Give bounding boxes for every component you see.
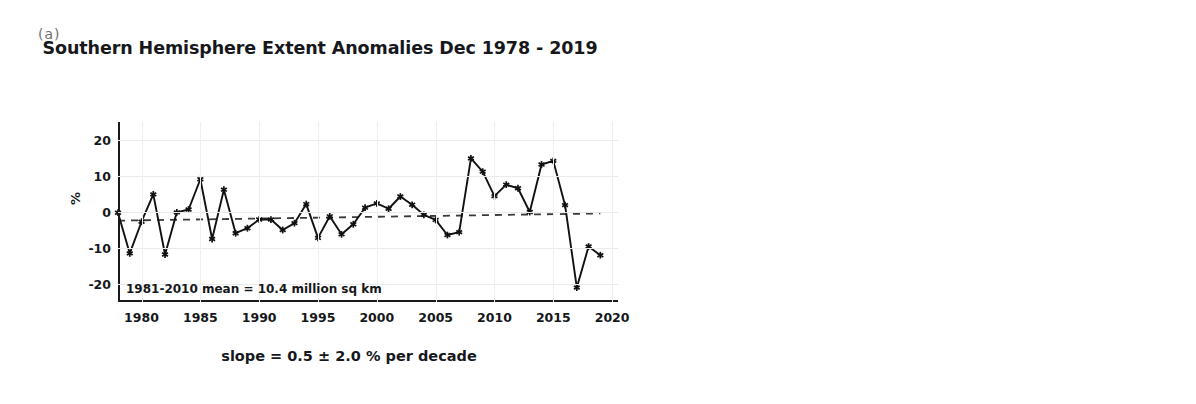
panel-a-title: Southern Hemisphere Extent Anomalies Dec…	[0, 38, 640, 58]
panel-a-gridline-v	[612, 122, 613, 302]
panel-a-x-tick-label: 2020	[595, 310, 630, 325]
panel-a-x-tick-label: 1995	[301, 310, 336, 325]
panel-a-caption: slope = 0.5 ± 2.0 % per decade	[0, 348, 660, 364]
panel-a-gridline-v	[259, 122, 260, 302]
panel-a-y-axis-label: %	[68, 192, 83, 205]
panel-a-y-tick-label: -10	[88, 241, 111, 256]
panel-a-gridline-v	[494, 122, 495, 302]
panel-a-x-tick-label: 2015	[536, 310, 571, 325]
figure-container: (a) Southern Hemisphere Extent Anomalies…	[0, 0, 1196, 404]
panel-a-y-tick-label: 0	[102, 205, 111, 220]
panel-a-annotation: 1981-2010 mean = 10.4 million sq km	[126, 282, 382, 296]
panel-a-gridline-v	[436, 122, 437, 302]
panel-a-gridline-v	[200, 122, 201, 302]
panel-a-y-tick-label: 10	[94, 169, 111, 184]
panel-a-x-tick-label: 2005	[418, 310, 453, 325]
panel-a-x-tick-label: 1990	[242, 310, 277, 325]
panel-a-gridline-v	[142, 122, 143, 302]
panel-a-y-tick-label: -20	[88, 277, 111, 292]
panel-a-gridline-h	[118, 140, 618, 141]
panel-a-caption-text: slope = 0.5 ± 2.0 % per decade	[183, 348, 477, 364]
panel-b: (b) Extent (Millions of square kilometer…	[660, 0, 1196, 404]
panel-a-y-tick-label: 20	[94, 133, 111, 148]
panel-a-x-tick-label: 2000	[359, 310, 394, 325]
panel-a-gridline-h	[118, 248, 618, 249]
panel-a-gridline-v	[553, 122, 554, 302]
panel-a-x-tick-label: 2010	[477, 310, 512, 325]
panel-a-gridline-v	[318, 122, 319, 302]
panel-a: (a) Southern Hemisphere Extent Anomalies…	[0, 0, 660, 404]
panel-a-gridline-h	[118, 176, 618, 177]
panel-a-gridline-v	[377, 122, 378, 302]
panel-a-x-tick-label: 1980	[124, 310, 159, 325]
panel-a-gridline-h	[118, 212, 618, 213]
panel-a-plot-area: 20100-10-20 1980198519901995200020052010…	[118, 122, 618, 302]
panel-a-x-tick-label: 1985	[183, 310, 218, 325]
